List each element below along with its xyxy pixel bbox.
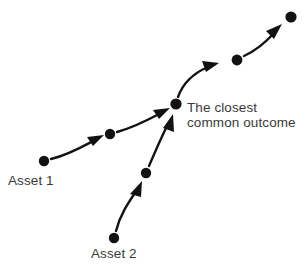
arrow-shared-mid-to-end bbox=[244, 33, 274, 56]
asset-2-mid-node bbox=[141, 168, 151, 178]
asset-1-label: Asset 1 bbox=[8, 173, 54, 188]
arrow-asset1-start-to-mid bbox=[51, 140, 95, 159]
common-outcome-label: The closestcommon outcome bbox=[187, 100, 296, 130]
diagram-svg bbox=[0, 0, 305, 277]
arrow-asset1-start-to-mid-head bbox=[87, 135, 104, 146]
arrow-asset1-mid-to-junction bbox=[117, 113, 161, 132]
arrow-junction-to-shared-mid bbox=[178, 67, 208, 97]
shared-path-group bbox=[178, 24, 282, 97]
asset-2-start-node bbox=[109, 233, 119, 243]
arrow-asset2-start-to-mid bbox=[116, 190, 137, 231]
diagram-canvas: Asset 1 Asset 2 The closestcommon outcom… bbox=[0, 0, 305, 277]
asset-2-label: Asset 2 bbox=[91, 246, 137, 261]
asset-1-mid-node bbox=[105, 129, 115, 139]
arrow-shared-mid-to-end-head bbox=[266, 24, 282, 39]
shared-path-mid-node bbox=[232, 55, 243, 66]
common-outcome-node bbox=[170, 98, 181, 109]
common-outcome-label-line-1: The closest bbox=[187, 100, 257, 115]
asset-1-start-node bbox=[39, 156, 49, 166]
arrow-junction-to-shared-mid-head bbox=[202, 61, 219, 72]
arrow-asset2-mid-to-junction bbox=[149, 124, 168, 166]
common-outcome-label-line-2: common outcome bbox=[187, 115, 296, 130]
arrow-asset1-mid-to-junction-head bbox=[153, 108, 170, 119]
shared-path-end-node bbox=[285, 11, 296, 22]
arrow-asset2-start-to-mid-head bbox=[130, 181, 142, 197]
